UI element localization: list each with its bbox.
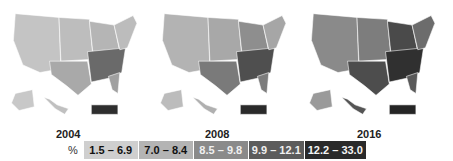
legend-bin-5: 12.2 – 33.0: [305, 141, 367, 159]
legend-bin-3: 8.5 – 9.8: [194, 141, 249, 159]
region-florida: [108, 73, 119, 94]
map-2016: [300, 0, 452, 128]
region-puerto-rico: [240, 105, 267, 115]
region-puerto-rico: [91, 105, 118, 115]
us-choropleth-2004: [2, 0, 154, 128]
region-hawaii: [342, 97, 367, 114]
legend-unit-label: %: [68, 144, 78, 156]
region-south: [237, 48, 275, 82]
region-alaska: [310, 90, 333, 111]
year-label-2008: 2008: [205, 128, 229, 140]
region-florida: [406, 73, 417, 94]
region-texas: [348, 61, 390, 95]
region-alaska: [161, 90, 184, 111]
legend-bin-2: 7.0 – 8.4: [139, 141, 194, 159]
region-texas: [199, 61, 241, 95]
us-choropleth-2008: [151, 0, 303, 128]
us-choropleth-2016: [300, 0, 452, 128]
region-south: [386, 48, 424, 82]
map-2008: [151, 0, 303, 128]
region-puerto-rico: [389, 105, 416, 115]
region-texas: [50, 61, 92, 95]
legend: % 1.5 – 6.9 7.0 – 8.4 8.5 – 9.8 9.9 – 12…: [68, 141, 367, 159]
region-hawaii: [193, 97, 218, 114]
region-hawaii: [44, 97, 69, 114]
region-alaska: [12, 90, 35, 111]
year-label-2004: 2004: [56, 128, 80, 140]
legend-bin-4: 9.9 – 12.1: [249, 141, 305, 159]
legend-bin-1: 1.5 – 6.9: [84, 141, 139, 159]
year-label-2016: 2016: [357, 128, 381, 140]
region-florida: [257, 73, 268, 94]
region-south: [88, 48, 126, 82]
map-2004: [2, 0, 154, 128]
